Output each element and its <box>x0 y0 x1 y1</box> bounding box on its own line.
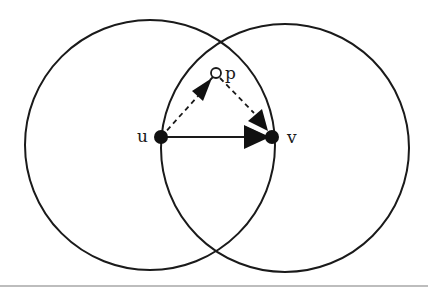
circle-around-u <box>25 20 275 270</box>
edge-p-v-line <box>220 78 254 113</box>
label-v: v <box>286 127 297 147</box>
edge-p-v-arrowhead-icon <box>248 109 268 131</box>
diagram-canvas: u v p <box>0 0 428 288</box>
node-p <box>211 68 221 78</box>
label-u: u <box>137 126 148 146</box>
edge-u-p-line <box>161 95 199 137</box>
label-p: p <box>225 63 236 83</box>
circle-around-v <box>161 24 409 272</box>
edge-u-p-arrowhead-icon <box>192 78 212 101</box>
bottom-rule <box>0 285 428 287</box>
node-v <box>265 130 279 144</box>
node-u <box>154 130 168 144</box>
